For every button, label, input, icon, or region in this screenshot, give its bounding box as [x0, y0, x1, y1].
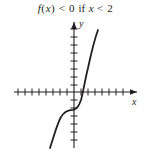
y-axis-label: y — [78, 18, 84, 29]
x-axis-arrowhead — [130, 89, 137, 95]
y-axis-arrowhead — [71, 22, 77, 29]
coordinate-plot: y x — [0, 0, 151, 159]
function-graph-figure: f(x) < 0 if x < 2 — [0, 0, 151, 159]
x-axis-label: x — [131, 96, 137, 107]
